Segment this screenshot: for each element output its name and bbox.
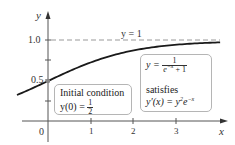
x-tick-label-2: 2 xyxy=(131,127,136,136)
solution-equation: y = 1e−x + 1 xyxy=(146,57,187,74)
x-tick-label-0: 0 xyxy=(39,127,44,137)
asymptote-label: y = 1 xyxy=(121,29,142,39)
satisfies-label: satisfies xyxy=(146,85,178,95)
y-axis-arrow-icon xyxy=(46,11,51,19)
initial-condition-title: Initial condition xyxy=(60,88,124,98)
solution-box: y = 1e−x + 1 satisfies y′(x) = y2e−x xyxy=(140,54,212,112)
initial-condition-equation: y(0) = 12 xyxy=(60,99,93,116)
x-axis-arrow-icon xyxy=(220,119,228,124)
initial-condition-box: Initial condition y(0) = 12 xyxy=(54,84,132,115)
x-tick-label-3: 3 xyxy=(174,127,179,136)
fraction-one-half: 12 xyxy=(87,99,93,116)
y-axis-label: y xyxy=(36,10,41,21)
fraction-logistic: 1e−x + 1 xyxy=(162,57,187,74)
y-tick-label-1-0: 1.0 xyxy=(28,35,41,45)
x-axis-label: x xyxy=(219,126,224,137)
differential-equation: y′(x) = y2e−x xyxy=(146,97,194,107)
y-tick-label-0-5: 0.5 xyxy=(31,75,44,85)
initial-point xyxy=(46,79,50,83)
x-tick-label-1: 1 xyxy=(89,127,94,136)
